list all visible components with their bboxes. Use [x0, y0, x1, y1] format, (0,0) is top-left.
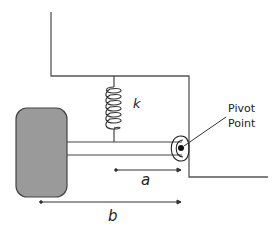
pivot-leader-line: [184, 117, 226, 146]
support-frame: [51, 12, 268, 177]
spring-constant-label: k: [133, 96, 141, 111]
pivot-dot: [178, 145, 184, 151]
spring: [106, 76, 121, 142]
pivot-label-line1: Pivot: [228, 102, 256, 115]
pivot-label-line2: Point: [228, 117, 256, 130]
dimension-a-label: a: [141, 171, 150, 189]
rod: [67, 142, 182, 155]
dimension-b: [40, 200, 181, 204]
pivot-spring-diagram: k Pivot Point a b: [0, 0, 280, 232]
mass-block: [16, 108, 67, 197]
dimension-b-label: b: [108, 207, 118, 225]
